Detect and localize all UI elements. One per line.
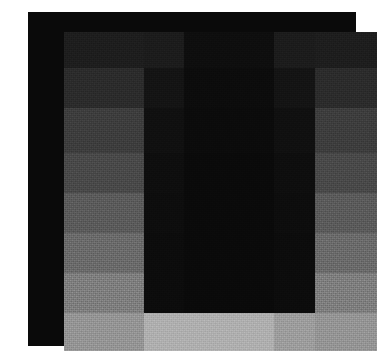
heatmap-cell (104, 273, 144, 313)
heatmap-cell (356, 68, 377, 108)
heatmap-cell (184, 193, 229, 233)
heatmap-cell (104, 32, 144, 68)
heatmap-cell (356, 273, 377, 313)
heatmap-cell (229, 233, 274, 273)
heatmap-cell (184, 313, 229, 351)
heatmap-cell (229, 153, 274, 193)
heatmap-cell (315, 153, 356, 193)
heatmap-cell (104, 153, 144, 193)
heatmap-cell (184, 68, 229, 108)
heatmap-cell (315, 313, 356, 351)
heatmap-cell (64, 273, 104, 313)
heatmap-cell (356, 233, 377, 273)
heatmap-cell (274, 108, 315, 153)
heatmap-cell (144, 68, 184, 108)
heatmap-cell (144, 273, 184, 313)
heatmap-cell (229, 68, 274, 108)
heatmap-cell (64, 313, 104, 351)
heatmap-cell (144, 153, 184, 193)
heatmap-cell (356, 313, 377, 351)
heatmap-cell (144, 193, 184, 233)
heatmap-cell (64, 193, 104, 233)
heatmap-cell (274, 233, 315, 273)
heatmap-cell (104, 68, 144, 108)
heatmap-cell (315, 193, 356, 233)
heatmap-cell (315, 233, 356, 273)
heatmap-cell (274, 32, 315, 68)
heatmap-cell (356, 108, 377, 153)
heatmap-cell (315, 108, 356, 153)
heatmap-cell (184, 108, 229, 153)
heatmap-cell (229, 108, 274, 153)
heatmap-cell (315, 32, 356, 68)
heatmap-cell (229, 193, 274, 233)
heatmap-cell (184, 153, 229, 193)
heatmap-cell (144, 32, 184, 68)
heatmap-cell (64, 153, 104, 193)
heatmap-cell (315, 273, 356, 313)
heatmap-cell (104, 108, 144, 153)
heatmap-cell (104, 233, 144, 273)
heatmap-cell (229, 313, 274, 351)
heatmap-cell (274, 273, 315, 313)
heatmap-plot-area (64, 32, 377, 351)
heatmap-cell (104, 193, 144, 233)
heatmap-cell (274, 193, 315, 233)
heatmap-cell (64, 32, 104, 68)
heatmap-cell (356, 153, 377, 193)
heatmap-cell (274, 313, 315, 351)
heatmap-cell (356, 32, 377, 68)
heatmap-grid (64, 32, 377, 351)
heatmap-cell (229, 273, 274, 313)
heatmap-cell (64, 68, 104, 108)
heatmap-cell (274, 68, 315, 108)
heatmap-cell (144, 108, 184, 153)
heatmap-cell (356, 193, 377, 233)
heatmap-cell (184, 32, 229, 68)
heatmap-cell (184, 273, 229, 313)
heatmap-cell (64, 108, 104, 153)
heatmap-cell (274, 153, 315, 193)
screenshot-root (0, 0, 381, 363)
heatmap-cell (229, 32, 274, 68)
heatmap-cell (104, 313, 144, 351)
heatmap-cell (184, 233, 229, 273)
heatmap-cell (144, 233, 184, 273)
heatmap-cell (64, 233, 104, 273)
heatmap-cell (144, 313, 184, 351)
heatmap-cell (315, 68, 356, 108)
image-frame (28, 12, 356, 346)
